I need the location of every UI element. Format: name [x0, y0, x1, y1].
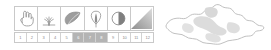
month-cell[interactable]: 1 — [15, 33, 27, 42]
legend-cell-bud[interactable] — [85, 7, 108, 30]
month-cell[interactable]: 7 — [84, 33, 96, 42]
screenshot-root: 1 2 3 4 5 6 7 8 9 10 11 12 — [0, 0, 271, 50]
gradient-triangle-icon — [131, 7, 153, 30]
month-cell[interactable]: 5 — [61, 33, 73, 42]
month-cell[interactable]: 11 — [131, 33, 143, 42]
legend-cell-gradient[interactable] — [131, 7, 153, 30]
mongolia-map[interactable] — [162, 3, 268, 47]
month-cell[interactable]: 6 — [73, 33, 85, 42]
legend-cell-half-moon[interactable] — [108, 7, 131, 30]
mongolia-map-svg — [162, 3, 268, 47]
month-cell[interactable]: 12 — [142, 33, 153, 42]
month-cell[interactable]: 9 — [108, 33, 120, 42]
month-cell[interactable]: 10 — [119, 33, 131, 42]
half-moon-icon — [111, 11, 126, 26]
leaf-icon — [64, 11, 81, 26]
month-cell[interactable]: 2 — [27, 33, 39, 42]
month-cell[interactable]: 3 — [38, 33, 50, 42]
hand-icon — [19, 10, 34, 27]
month-cell[interactable]: 8 — [96, 33, 108, 42]
month-scale: 1 2 3 4 5 6 7 8 9 10 11 12 — [14, 32, 154, 43]
legend-cell-grass[interactable] — [38, 7, 61, 30]
grass-sprout-icon — [41, 12, 57, 26]
legend-icon-row — [14, 6, 154, 31]
month-cell[interactable]: 4 — [50, 33, 62, 42]
legend-cell-hand[interactable] — [15, 7, 38, 30]
bud-icon — [89, 10, 103, 28]
legend-cell-leaf[interactable] — [61, 7, 84, 30]
phenology-legend: 1 2 3 4 5 6 7 8 9 10 11 12 — [14, 6, 154, 44]
